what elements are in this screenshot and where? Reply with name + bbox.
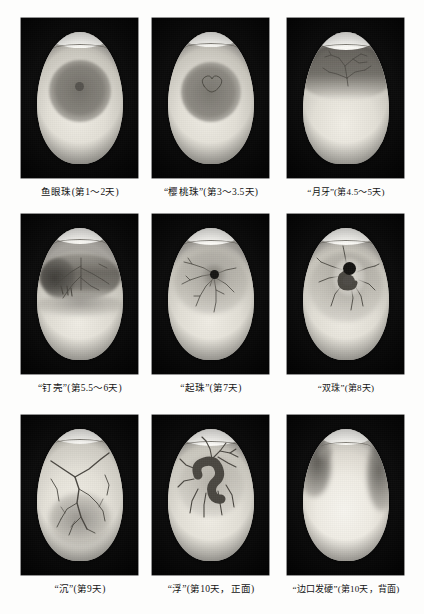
photo-grid: 鱼眼珠(第1～2天) “樱桃珠”(第3～3.5天) <box>0 0 424 614</box>
embryo-dot <box>210 270 219 279</box>
photo-cell-4[interactable]: “钉壳”(第5.5～6天) <box>21 214 139 410</box>
egg-silhouette <box>37 32 123 164</box>
egg-silhouette <box>37 228 123 360</box>
photo-cell-5[interactable]: “起珠”(第7天) <box>152 214 270 410</box>
egg-silhouette <box>303 32 389 164</box>
panel-caption: “钉壳”(第5.5～6天) <box>21 382 139 395</box>
candling-photo-2 <box>152 18 269 178</box>
embryo-dot-upper <box>343 262 356 275</box>
cherry-outline-vessels <box>168 32 254 164</box>
blood-vessel-network <box>37 228 123 360</box>
egg-silhouette <box>168 228 254 360</box>
photo-cell-8[interactable]: “浮”(第10天，正面) <box>152 415 270 611</box>
egg-silhouette <box>37 429 123 561</box>
embryo-comma-shape <box>303 228 389 360</box>
candling-photo-3 <box>287 18 404 178</box>
air-cell-boundary <box>53 44 107 54</box>
yolk-dark-area <box>49 60 111 122</box>
candling-photo-1 <box>21 18 138 178</box>
panel-caption: “沉”(第9天) <box>21 583 139 596</box>
panel-caption: “月牙”(第4.5～5天) <box>280 186 412 199</box>
blood-vessel-network <box>168 228 254 360</box>
blood-vessel-network <box>37 429 123 561</box>
photo-cell-9[interactable]: “边口发硬”(第10天，背面) <box>287 415 405 611</box>
photo-cell-7[interactable]: “沉”(第9天) <box>21 415 139 611</box>
figure-sheet: 鱼眼珠(第1～2天) “樱桃珠”(第3～3.5天) <box>0 0 424 614</box>
egg-silhouette <box>168 32 254 164</box>
candling-photo-4 <box>21 214 138 374</box>
panel-caption: “双珠”(第8天) <box>280 382 412 395</box>
candling-photo-7 <box>21 415 138 575</box>
panel-caption: “边口发硬”(第10天，背面) <box>280 583 412 596</box>
photo-cell-3[interactable]: “月牙”(第4.5～5天) <box>287 18 405 214</box>
panel-caption: 鱼眼珠(第1～2天) <box>21 186 139 199</box>
candling-photo-8 <box>152 415 269 575</box>
photo-row: 鱼眼珠(第1～2天) “樱桃珠”(第3～3.5天) <box>0 18 424 214</box>
candling-photo-6 <box>287 214 404 374</box>
photo-row: “沉”(第9天) <box>0 415 424 611</box>
egg-silhouette <box>303 228 389 360</box>
blood-vessel-network <box>168 429 254 561</box>
panel-caption: “樱桃珠”(第3～3.5天) <box>152 186 270 199</box>
photo-row: “钉壳”(第5.5～6天) <box>0 214 424 410</box>
embryo-dot <box>75 82 84 91</box>
blood-vessel-network <box>303 32 389 164</box>
photo-cell-6[interactable]: “双珠”(第8天) <box>287 214 405 410</box>
panel-caption: “起珠”(第7天) <box>152 382 270 395</box>
hardened-edge-notch <box>317 441 333 461</box>
photo-cell-1[interactable]: 鱼眼珠(第1～2天) <box>21 18 139 214</box>
candling-photo-9 <box>287 415 404 575</box>
egg-silhouette <box>303 429 389 561</box>
egg-silhouette <box>168 429 254 561</box>
panel-caption: “浮”(第10天，正面) <box>152 583 270 596</box>
candling-photo-5 <box>152 214 269 374</box>
photo-cell-2[interactable]: “樱桃珠”(第3～3.5天) <box>152 18 270 214</box>
